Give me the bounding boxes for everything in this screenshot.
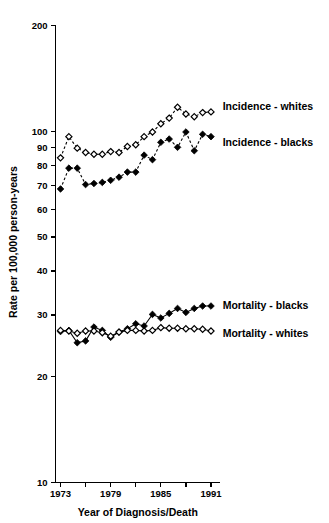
data-point-marker: [74, 339, 81, 346]
x-tick-group: 1973197919851991: [50, 483, 222, 500]
data-point-marker: [149, 156, 156, 163]
data-point-marker: [108, 149, 114, 155]
y-tick-label: 70: [37, 180, 48, 191]
x-tick-label: 1985: [150, 488, 172, 499]
data-point-marker: [91, 151, 97, 157]
figure-container: 102030405060708090100200 197319791985199…: [0, 0, 329, 523]
y-tick-label: 80: [37, 160, 48, 171]
data-point-marker: [158, 325, 164, 331]
y-tick-label: 50: [37, 231, 48, 242]
data-point-marker: [66, 165, 73, 172]
data-point-marker: [191, 147, 198, 154]
data-point-marker: [183, 129, 190, 136]
axes-group: [56, 26, 221, 483]
data-point-marker: [208, 328, 214, 334]
data-point-marker: [57, 155, 63, 161]
data-point-marker: [166, 325, 172, 331]
data-point-marker: [183, 326, 189, 332]
data-point-marker: [124, 169, 131, 176]
data-point-marker: [200, 326, 206, 332]
data-point-marker: [82, 181, 89, 188]
data-point-marker: [82, 328, 88, 334]
data-point-marker: [166, 310, 173, 317]
data-point-marker: [208, 109, 214, 115]
data-point-marker: [82, 338, 89, 345]
data-point-marker: [174, 144, 181, 151]
data-point-marker: [141, 152, 148, 159]
data-point-marker: [99, 151, 105, 157]
series-labels-group: Incidence - whitesIncidence - blacksMort…: [223, 100, 314, 340]
data-point-marker: [191, 305, 198, 312]
y-tick-label: 90: [37, 142, 48, 153]
data-point-marker: [133, 327, 139, 333]
data-point-marker: [74, 165, 81, 172]
data-point-marker: [149, 129, 155, 135]
series-label-3: Mortality - whites: [223, 327, 309, 339]
axis-titles-group: Year of Diagnosis/DeathRate per 100,000 …: [7, 166, 198, 518]
x-tick-label: 1979: [100, 488, 121, 499]
data-point-marker: [191, 326, 197, 332]
y-tick-label: 100: [32, 126, 48, 137]
data-point-marker: [132, 169, 139, 176]
x-tick-label: 1973: [50, 488, 71, 499]
data-point-marker: [166, 136, 173, 143]
data-point-marker: [107, 177, 114, 184]
data-point-marker: [158, 139, 165, 146]
data-point-marker: [149, 327, 155, 333]
data-point-marker: [199, 131, 206, 138]
data-point-marker: [200, 109, 206, 115]
data-point-marker: [174, 325, 180, 331]
data-point-marker: [191, 114, 197, 120]
data-point-marker: [57, 186, 64, 193]
data-point-marker: [199, 303, 206, 310]
x-tick-label: 1991: [200, 488, 222, 499]
x-axis-title: Year of Diagnosis/Death: [78, 506, 198, 518]
data-point-marker: [132, 321, 139, 328]
data-point-marker: [174, 305, 181, 312]
data-point-marker: [116, 329, 122, 335]
series-label-2: Mortality - blacks: [223, 299, 309, 311]
data-point-marker: [116, 174, 123, 181]
series-label-1: Incidence - blacks: [223, 136, 314, 148]
axis-frame: [56, 26, 221, 483]
y-tick-label: 200: [32, 20, 48, 31]
data-point-marker: [208, 303, 215, 310]
data-point-marker: [74, 330, 80, 336]
y-tick-label: 30: [37, 309, 48, 320]
y-tick-label: 20: [37, 371, 48, 382]
data-point-marker: [183, 309, 190, 316]
data-point-marker: [91, 180, 98, 187]
series-line-1: [61, 132, 211, 189]
data-point-marker: [82, 149, 88, 155]
data-point-marker: [141, 328, 147, 334]
data-point-marker: [99, 179, 106, 186]
chart-canvas: 102030405060708090100200 197319791985199…: [0, 0, 329, 523]
data-point-marker: [91, 328, 97, 334]
series-label-0: Incidence - whites: [223, 100, 314, 112]
y-axis-title: Rate per 100,000 person-years: [7, 166, 19, 318]
data-point-marker: [208, 133, 215, 140]
y-tick-label: 60: [37, 204, 48, 215]
y-tick-group: 102030405060708090100200: [32, 20, 56, 488]
data-point-marker: [158, 121, 164, 127]
data-point-marker: [158, 315, 165, 322]
y-tick-label: 40: [37, 265, 48, 276]
y-tick-label: 10: [37, 477, 48, 488]
